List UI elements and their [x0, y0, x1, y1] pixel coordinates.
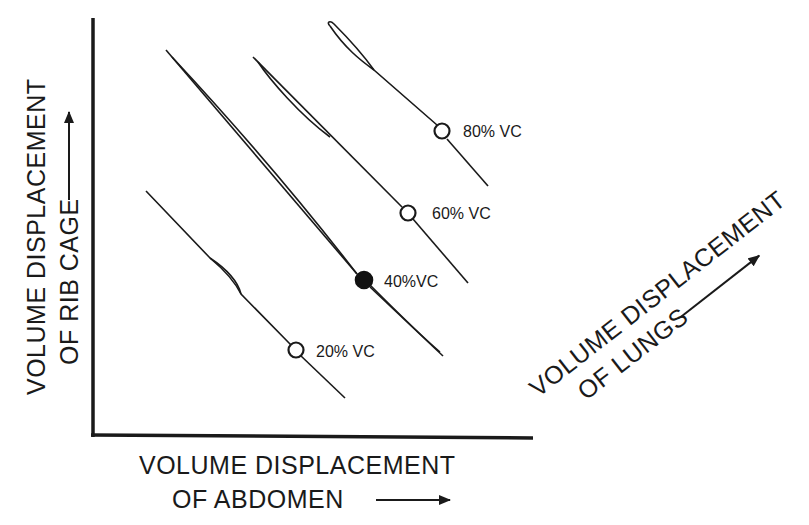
open-marker-20	[289, 343, 304, 358]
x-axis-title: VOLUME DISPLACEMENT OF ABDOMEN	[139, 451, 456, 513]
y-axis-title-line2: OF RIB CAGE	[55, 198, 83, 365]
open-marker-80	[435, 124, 450, 139]
lungs-title-line1: VOLUME DISPLACEMENT	[524, 185, 791, 402]
x-axis-title-line1: VOLUME DISPLACEMENT	[139, 451, 456, 479]
label-20-vc: 20% VC	[316, 343, 375, 360]
label-60-vc: 60% VC	[432, 205, 491, 222]
x-axis-title-line2: OF ABDOMEN	[172, 485, 344, 513]
y-axis-title: VOLUME DISPLACEMENT OF RIB CAGE	[22, 78, 83, 395]
label-80-vc: 80% VC	[463, 123, 522, 140]
y-axis-title-line1: VOLUME DISPLACEMENT	[22, 78, 50, 395]
isopleth-60-vc: 60% VC	[253, 57, 491, 283]
lungs-axis-title: VOLUME DISPLACEMENT OF LUNGS	[524, 185, 809, 427]
isopleth-20-vc: 20% VC	[146, 191, 375, 398]
filled-marker-40	[356, 272, 373, 289]
label-40-vc: 40%VC	[384, 273, 438, 290]
isopleth-40-vc: 40%VC	[166, 50, 443, 356]
konno-mead-diagram: 20% VC 40%VC 60% VC 80% VC VOLUME DISPLA…	[0, 0, 809, 525]
x-axis-line	[91, 435, 533, 438]
open-marker-60	[401, 206, 416, 221]
axes	[91, 18, 533, 438]
